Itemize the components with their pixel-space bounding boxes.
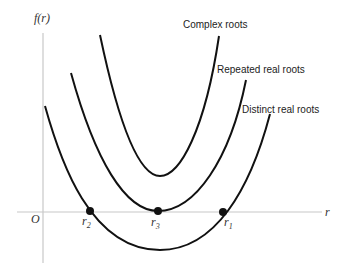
origin-label: O: [31, 212, 40, 226]
repeated-roots-curve: [71, 73, 246, 211]
root-point-r2: [86, 207, 94, 215]
roots-diagram: f(r) r O r2 r3 r1 Complex roots Repeated…: [0, 0, 347, 273]
root-point-r3: [154, 207, 162, 215]
root-label-r2: r2: [82, 214, 91, 230]
complex-roots-curve: [100, 35, 219, 176]
repeated-roots-label: Repeated real roots: [217, 64, 305, 75]
root-label-r3: r3: [151, 215, 160, 231]
complex-roots-label: Complex roots: [183, 19, 247, 30]
x-axis-label: r: [325, 205, 330, 219]
y-axis-label: f(r): [34, 11, 50, 25]
root-label-r1: r1: [224, 215, 233, 231]
distinct-roots-label: Distinct real roots: [242, 104, 319, 115]
